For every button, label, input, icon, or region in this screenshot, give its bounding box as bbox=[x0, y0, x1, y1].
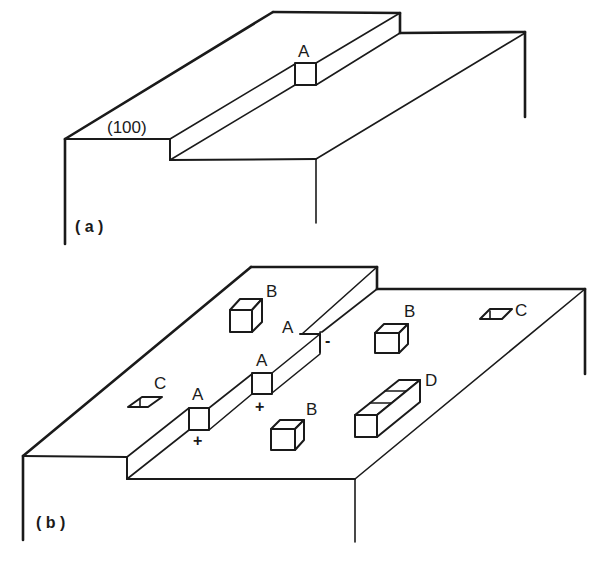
panel-a-plane-label: (100) bbox=[107, 118, 147, 137]
panel-a-lower-terrace-back-edge bbox=[400, 32, 525, 33]
panel-a-step-upper-edge bbox=[170, 13, 400, 139]
panel-b-adatom-cluster-2 bbox=[375, 324, 408, 353]
panel-b-upper-front-edge bbox=[23, 456, 127, 457]
panel-a-upper-terrace-left-edge bbox=[65, 12, 273, 139]
panel-a-kink-label: A bbox=[298, 42, 310, 61]
panel-b-kink-label-2: A bbox=[256, 351, 268, 370]
panel-b-lower-right-edge bbox=[355, 289, 585, 479]
panel-a-step-lower-edge bbox=[170, 33, 400, 160]
panel-b-cluster-label-3: B bbox=[306, 400, 317, 419]
panel-a: A (100) ( a ) bbox=[65, 12, 525, 244]
panel-b-kink-sign-1: + bbox=[193, 432, 202, 449]
panel-b-upper-terrace-left-edge bbox=[23, 267, 251, 456]
panel-b-vacancy-1 bbox=[128, 397, 162, 407]
panel-a-lower-front-edge bbox=[170, 159, 316, 160]
panel-b-kink-label-3: A bbox=[282, 318, 294, 337]
panel-b-adatom-cluster-3 bbox=[271, 420, 304, 450]
panel-b-adatom-cluster-1 bbox=[230, 299, 262, 332]
panel-b-kink-sign-2: + bbox=[255, 398, 264, 415]
panel-b-row-island bbox=[355, 380, 420, 437]
panel-b: A + A + A - B B B C bbox=[23, 267, 585, 542]
panel-b-cluster-label-2: B bbox=[404, 302, 415, 321]
panel-a-upper-terrace-back-edge bbox=[273, 12, 400, 13]
panel-b-vacancy-label-2: C bbox=[515, 301, 527, 320]
panel-b-vacancy-label-1: C bbox=[154, 374, 166, 393]
panel-b-step-upper-edge bbox=[127, 267, 377, 457]
panel-a-kink-A bbox=[295, 63, 316, 85]
panel-a-caption: ( a ) bbox=[75, 218, 103, 235]
panel-b-row-island-label: D bbox=[425, 371, 437, 390]
crystal-surface-diagram: A (100) ( a ) A bbox=[0, 0, 602, 565]
panel-b-cluster-label-1: B bbox=[266, 282, 277, 301]
panel-b-kink-label-1: A bbox=[192, 385, 204, 404]
panel-b-caption: ( b ) bbox=[36, 514, 65, 531]
panel-a-lower-right-edge bbox=[316, 33, 525, 159]
panel-b-vacancy-2 bbox=[480, 309, 512, 319]
panel-b-kink-A2 bbox=[252, 373, 272, 394]
panel-b-kink-sign-3: - bbox=[325, 332, 330, 349]
panel-b-kink-A1 bbox=[189, 408, 209, 430]
